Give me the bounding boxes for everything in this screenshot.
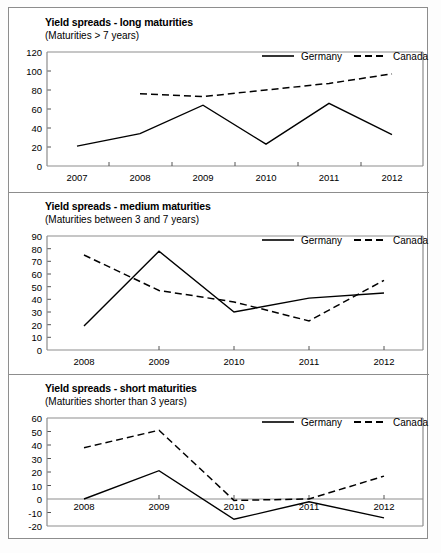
panel-1-series-germany [77,103,392,146]
ytick-80: 80 [31,244,42,255]
xtick-2009: 2009 [148,356,169,367]
ytick-20: 20 [31,142,42,153]
ytick-10: 10 [31,481,42,492]
legend-germany-label: Germany [301,51,342,62]
panel-2-title: Yield spreads - medium maturities [45,200,211,213]
panel-3-plot: 60 50 40 30 20 10 0 -10 -20 [9,407,429,539]
panel-2-series-germany [84,251,384,326]
panel-2-chart-svg: 90 80 70 60 50 40 30 20 10 0 [9,225,429,371]
ytick-50: 50 [31,282,42,293]
panel-3-series-canada [84,430,384,500]
panel-3-x-tickmarks [159,495,384,499]
xtick-2011: 2011 [319,172,339,183]
panel-2-legend: Germany Canada [262,235,428,246]
panel-2-series-canada [84,255,384,321]
panel-2-x-axis-labels: 2008 2009 2010 2011 2012 [73,356,394,367]
panel-3-legend: Germany Canada [262,417,428,428]
panel-1-chart-svg: 120 100 80 60 40 20 0 [9,41,429,189]
xtick-2012: 2012 [373,501,394,512]
ytick-0: 0 [37,161,42,172]
xtick-2008: 2008 [73,501,94,512]
legend-germany-label: Germany [301,235,342,246]
panel-medium-maturities: Yield spreads - medium maturities (Matur… [9,192,429,374]
panel-3-titles: Yield spreads - short maturities (Maturi… [45,382,197,408]
xtick-2012: 2012 [373,356,394,367]
ytick-20: 20 [31,320,42,331]
ytick-80: 80 [31,85,42,96]
panel-2-titles: Yield spreads - medium maturities (Matur… [45,200,211,226]
ytick-50: 50 [31,427,42,438]
ytick-60: 60 [31,104,42,115]
panel-1-title: Yield spreads - long maturities [45,16,193,29]
ytick-120: 120 [26,47,42,58]
ytick-0: 0 [37,494,42,505]
ytick-40: 40 [31,123,42,134]
panel-3-chart-svg: 60 50 40 30 20 10 0 -10 -20 [9,407,429,539]
panel-long-maturities: Yield spreads - long maturities (Maturit… [9,8,429,192]
ytick-neg20: -20 [28,521,42,532]
legend-canada-label: Canada [393,235,428,246]
panel-1-x-axis-labels: 2007 2008 2009 2010 2011 2012 [66,172,402,183]
ytick-30: 30 [31,454,42,465]
panel-1-titles: Yield spreads - long maturities (Maturit… [45,16,193,42]
ytick-20: 20 [31,467,42,478]
xtick-2009: 2009 [148,501,169,512]
legend-germany-label: Germany [301,417,342,428]
ytick-neg10: -10 [28,508,42,519]
xtick-2010: 2010 [255,172,276,183]
xtick-2008: 2008 [129,172,150,183]
xtick-2012: 2012 [381,172,402,183]
ytick-40: 40 [31,440,42,451]
panel-2-x-tickmarks [159,346,384,350]
panel-1-plot: 120 100 80 60 40 20 0 [9,41,429,189]
figure-page: Yield spreads - long maturities (Maturit… [0,0,441,553]
panel-2-plot: 90 80 70 60 50 40 30 20 10 0 [9,225,429,371]
panel-1-series-canada [140,74,392,97]
panel-2-y-axis: 90 80 70 60 50 40 30 20 10 0 [31,231,42,356]
xtick-2010: 2010 [223,356,244,367]
ytick-70: 70 [31,256,42,267]
legend-canada-label: Canada [393,51,428,62]
xtick-2009: 2009 [192,172,213,183]
xtick-2010: 2010 [223,501,244,512]
ytick-0: 0 [37,345,42,356]
ytick-10: 10 [31,332,42,343]
xtick-2008: 2008 [73,356,94,367]
panel-1-y-axis: 120 100 80 60 40 20 0 [26,47,42,172]
xtick-2011: 2011 [299,356,319,367]
ytick-60: 60 [31,269,42,280]
ytick-40: 40 [31,294,42,305]
panel-3-title: Yield spreads - short maturities [45,382,197,395]
ytick-90: 90 [31,231,42,242]
ytick-100: 100 [26,66,42,77]
xtick-2007: 2007 [66,172,87,183]
panel-1-legend: Germany Canada [262,51,428,62]
panel-short-maturities: Yield spreads - short maturities (Maturi… [9,374,429,540]
figure-outer-frame: Yield spreads - long maturities (Maturit… [8,7,428,539]
panel-3-y-axis: 60 50 40 30 20 10 0 -10 -20 [28,413,42,532]
ytick-60: 60 [31,413,42,424]
ytick-30: 30 [31,307,42,318]
panel-1-x-tickmarks [109,162,361,166]
legend-canada-label: Canada [393,417,428,428]
xtick-2011: 2011 [299,501,319,512]
